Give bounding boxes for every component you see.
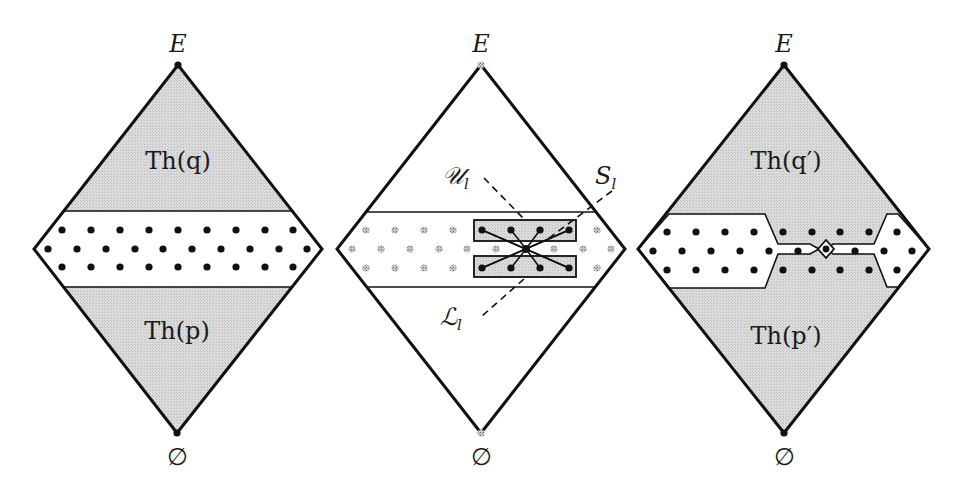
- lattice-diagrams: E ∅ Th(q) Th(p): [0, 0, 956, 500]
- lower-region-th-p: [64, 287, 292, 433]
- bottom-label: ∅: [774, 443, 795, 471]
- top-vertex: [780, 61, 787, 68]
- bottom-label: ∅: [167, 443, 188, 471]
- separator-node: [823, 246, 830, 253]
- bottom-vertex: [780, 429, 787, 436]
- upper-set-box: [474, 220, 576, 241]
- lower-set-label: ℒl: [440, 303, 462, 334]
- separator-label: Sl: [595, 162, 616, 193]
- separator-node: [522, 245, 530, 253]
- lower-region-label: Th(p): [144, 317, 210, 345]
- top-label: E: [168, 30, 187, 58]
- upper-region-label: Th(q′): [750, 147, 821, 175]
- bottom-vertex: [477, 429, 484, 436]
- diagram-stage: E ∅ Th(q) Th(p): [0, 0, 956, 500]
- bottom-vertex: [173, 429, 180, 436]
- top-label: E: [471, 30, 490, 58]
- lower-set-box: [474, 256, 576, 277]
- top-vertex: [477, 61, 484, 68]
- dot-grid: [44, 226, 310, 270]
- upper-region-th-q: [64, 65, 292, 211]
- panel-right: E ∅ Th(q′) Th(p′): [638, 30, 929, 471]
- annotation-leaders: [482, 178, 612, 316]
- lower-region-label: Th(p′): [750, 322, 821, 350]
- bottom-label: ∅: [471, 443, 492, 471]
- top-label: E: [774, 30, 793, 58]
- top-vertex: [174, 61, 181, 68]
- upper-set-label: 𝒰l: [442, 162, 470, 193]
- upper-region-label: Th(q): [145, 147, 211, 175]
- panel-left: E ∅ Th(q) Th(p): [34, 30, 322, 471]
- panel-middle: E ∅ 𝒰l Sl ℒl: [337, 30, 625, 471]
